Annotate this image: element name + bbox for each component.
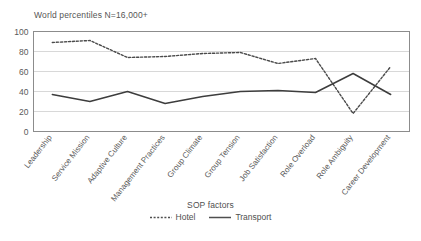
legend-entry-hotel: Hotel xyxy=(150,212,196,222)
x-category-label: Role Ambiguity xyxy=(315,133,355,181)
x-category-label: Role Overload xyxy=(278,133,317,179)
x-category-label: Group Tension xyxy=(203,133,242,179)
x-category-label: Group Climate xyxy=(165,133,204,180)
x-category-label: Job Satisfaction xyxy=(238,133,280,183)
y-tick-label: 20 xyxy=(19,107,29,117)
x-category-label: Adaptive Culture xyxy=(86,133,130,186)
grid-lines xyxy=(34,32,410,112)
legend-label: Hotel xyxy=(176,212,196,222)
legend-swatch-dotted-icon xyxy=(150,214,172,221)
legend-swatch-solid-icon xyxy=(209,214,231,221)
legend-label: Transport xyxy=(235,212,271,222)
plot-frame xyxy=(34,32,410,132)
x-axis-title: SOP factors xyxy=(0,200,421,210)
legend-entries: HotelTransport xyxy=(0,212,421,222)
legend-entry-transport: Transport xyxy=(209,212,271,222)
y-axis-tick-labels: 020406080100 xyxy=(14,27,28,137)
plot-border xyxy=(34,32,410,132)
x-category-label: Service Mission xyxy=(50,133,92,183)
y-tick-label: 100 xyxy=(14,27,28,37)
y-tick-label: 80 xyxy=(19,47,29,57)
chart-figure: World percentiles N=16,000+ 020406080100… xyxy=(0,0,421,241)
y-tick-label: 0 xyxy=(24,127,29,137)
y-tick-label: 40 xyxy=(19,87,29,97)
y-tick-label: 60 xyxy=(19,67,29,77)
x-category-label: Leadership xyxy=(22,133,54,170)
series-line-transport xyxy=(52,74,390,104)
chart-legend: SOP factors HotelTransport xyxy=(0,200,421,222)
x-axis-category-labels: LeadershipService MissionAdaptive Cultur… xyxy=(22,133,392,204)
